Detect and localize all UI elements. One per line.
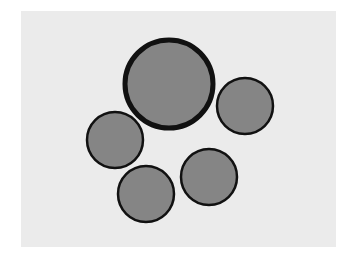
figure-canvas (0, 0, 351, 257)
circles-diagram (0, 0, 351, 257)
circle-bottom-right (181, 149, 237, 205)
circle-left (87, 112, 143, 168)
circle-bottom-left (118, 166, 174, 222)
large-circle-top (125, 40, 213, 128)
circle-right (217, 78, 273, 134)
